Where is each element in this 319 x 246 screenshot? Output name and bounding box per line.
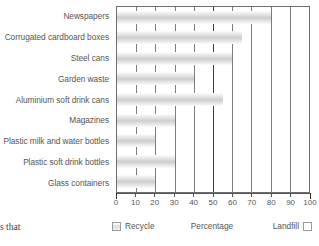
- category-label: Glass containers: [0, 172, 113, 193]
- x-axis-tick: [232, 193, 233, 197]
- bar-row: [117, 28, 309, 49]
- x-axis-tick: [290, 193, 291, 197]
- caption-fragment: s that: [0, 222, 20, 232]
- bar-row: [117, 48, 309, 69]
- bar-row: [117, 7, 309, 28]
- bar: [117, 11, 271, 24]
- x-axis-tick-label: 0: [114, 198, 118, 207]
- legend-item-recycle: Recycle: [112, 221, 155, 231]
- category-label: Plastic milk and water bottles: [0, 131, 113, 152]
- bar: [117, 93, 223, 106]
- legend-label-recycle: Recycle: [125, 221, 155, 231]
- landfill-swatch-icon: [303, 222, 312, 231]
- x-axis-title: Percentage: [191, 221, 233, 231]
- bar-row: [117, 89, 309, 110]
- category-label: Magazines: [0, 110, 113, 131]
- x-axis-tick: [135, 193, 136, 197]
- bar-row: [117, 151, 309, 172]
- x-axis-tick-label: 50: [209, 198, 218, 207]
- category-label: Aluminium soft drink cans: [0, 89, 113, 110]
- bar: [117, 155, 175, 168]
- x-axis-tick-label: 70: [247, 198, 256, 207]
- x-axis-tick: [271, 193, 272, 197]
- bar: [117, 52, 232, 65]
- x-axis-tick: [193, 193, 194, 197]
- bar-row: [117, 172, 309, 193]
- category-label: Corrugated cardboard boxes: [0, 27, 113, 48]
- legend: Recycle Percentage Landfill: [112, 221, 312, 237]
- x-axis-tick-label: 60: [228, 198, 237, 207]
- bar-row: [117, 69, 309, 90]
- x-axis-tick: [154, 193, 155, 197]
- category-label: Steel cans: [0, 48, 113, 69]
- x-axis-tick-label: 20: [150, 198, 159, 207]
- category-label: Plastic soft drink bottles: [0, 151, 113, 172]
- bar: [117, 134, 155, 147]
- x-axis-tick-label: 90: [286, 198, 295, 207]
- legend-label-landfill: Landfill: [273, 221, 299, 231]
- x-axis-tick-label: 30: [170, 198, 179, 207]
- legend-item-landfill: Landfill: [273, 221, 312, 231]
- category-label: Newspapers: [0, 6, 113, 27]
- bar: [117, 175, 155, 188]
- x-axis-tick: [213, 193, 214, 197]
- bar-row: [117, 110, 309, 131]
- x-axis-tick-label: 40: [189, 198, 198, 207]
- bar-series-recycle: [117, 7, 309, 192]
- x-axis-tick: [174, 193, 175, 197]
- category-axis-labels: Newspapers Corrugated cardboard boxes St…: [0, 6, 113, 193]
- bar-row: [117, 130, 309, 151]
- x-axis-tick-label: 80: [267, 198, 276, 207]
- bar: [117, 114, 175, 127]
- plot-area: [116, 6, 310, 193]
- category-label: Garden waste: [0, 68, 113, 89]
- x-axis-tick-label: 10: [131, 198, 140, 207]
- x-axis-tick-label: 100: [303, 198, 316, 207]
- bar: [117, 72, 194, 85]
- x-axis: 0102030405060708090100: [116, 193, 310, 213]
- chart-page: Newspapers Corrugated cardboard boxes St…: [0, 0, 319, 246]
- recycle-swatch-icon: [112, 222, 121, 231]
- x-axis-tick: [251, 193, 252, 197]
- bar: [117, 31, 242, 44]
